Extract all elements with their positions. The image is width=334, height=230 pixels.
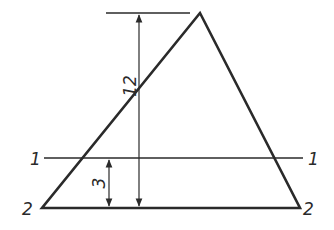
label-line1-left: 1 — [30, 149, 41, 169]
label-line2-right: 2 — [303, 199, 314, 219]
label-line1-right: 1 — [308, 149, 319, 169]
label-line2-left: 2 — [22, 199, 33, 219]
triangle — [42, 13, 300, 208]
diagram-canvas: 12 3 1 1 2 2 — [0, 0, 334, 230]
label-12: 12 — [120, 75, 140, 97]
label-3: 3 — [89, 178, 109, 189]
